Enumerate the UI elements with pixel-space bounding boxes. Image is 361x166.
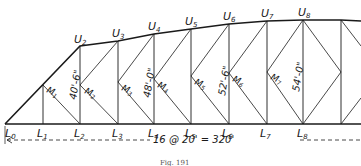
top-chord (5, 20, 361, 124)
svg-text:L2: L2 (74, 127, 85, 141)
svg-text:M7: M7 (269, 72, 284, 87)
upper-node-labels: U2 U3 U4 U5 U6 U7 U8 (74, 6, 311, 47)
diagonals (43, 20, 361, 124)
figure-caption: Fig. 191 (160, 159, 189, 166)
truss-members (5, 20, 361, 144)
svg-text:U3: U3 (112, 27, 125, 41)
svg-text:M5: M5 (193, 77, 208, 92)
svg-text:U7: U7 (261, 7, 274, 21)
svg-text:L0: L0 (5, 127, 16, 141)
svg-text:M6: M6 (231, 74, 246, 89)
svg-text:U8: U8 (298, 6, 311, 20)
svg-text:48'-0": 48'-0" (141, 67, 157, 99)
svg-text:U4: U4 (148, 20, 161, 34)
span-label: 16 @ 20' = 320' (153, 134, 234, 145)
svg-text:U6: U6 (223, 10, 236, 24)
svg-text:U2: U2 (74, 33, 87, 47)
svg-text:M3: M3 (120, 83, 135, 98)
svg-text:M2: M2 (83, 86, 98, 101)
truss-diagram: U2 U3 U4 U5 U6 U7 U8 L0 L1 L2 L3 L4 L5 L… (0, 0, 361, 166)
svg-text:L7: L7 (260, 127, 271, 141)
svg-text:U5: U5 (185, 15, 198, 29)
svg-text:52'-6": 52'-6" (216, 65, 232, 97)
svg-text:L1: L1 (37, 127, 48, 141)
svg-text:54'-0": 54'-0" (290, 61, 306, 93)
svg-text:M1: M1 (45, 85, 60, 100)
svg-text:M4: M4 (156, 80, 171, 95)
svg-text:L3: L3 (112, 127, 123, 141)
svg-text:L8: L8 (297, 127, 308, 141)
